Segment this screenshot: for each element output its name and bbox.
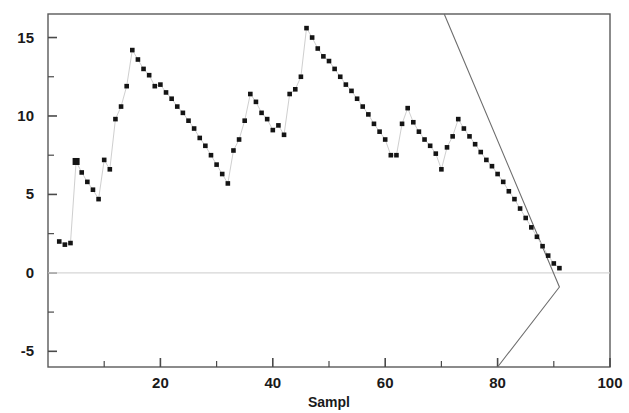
data-point (248, 92, 253, 97)
data-point (338, 74, 343, 79)
data-point (287, 92, 292, 97)
data-point (91, 187, 96, 192)
data-point (108, 167, 113, 172)
data-point (119, 104, 124, 109)
data-point (422, 137, 427, 142)
data-point (467, 134, 472, 139)
data-point (490, 164, 495, 169)
data-point (552, 261, 557, 266)
data-point (529, 225, 534, 230)
data-point (535, 234, 540, 239)
data-point (220, 172, 225, 177)
data-point (96, 197, 101, 202)
data-point (271, 128, 276, 133)
data-point (478, 150, 483, 155)
data-point (315, 46, 320, 51)
data-point (164, 90, 169, 95)
plot-frame (48, 14, 610, 367)
axis-ticks (48, 38, 610, 367)
data-point (518, 206, 523, 211)
series-connector-line (59, 28, 559, 268)
data-point (321, 54, 326, 59)
x-tick-label: 20 (130, 374, 190, 391)
data-point (124, 84, 129, 89)
data-point (473, 142, 478, 147)
data-point (501, 180, 506, 185)
data-point (405, 106, 410, 111)
data-point (557, 266, 562, 271)
data-point (507, 189, 512, 194)
data-point (130, 48, 135, 53)
data-point (355, 96, 360, 101)
data-point (360, 104, 365, 109)
data-point (327, 59, 332, 64)
data-point (226, 181, 231, 186)
data-point (389, 153, 394, 158)
data-point (299, 74, 304, 79)
data-point (377, 129, 382, 134)
data-point (445, 145, 450, 150)
data-point (332, 67, 337, 72)
data-point (85, 180, 90, 185)
x-tick-label: 80 (468, 374, 528, 391)
data-point (484, 158, 489, 163)
data-point (394, 153, 399, 158)
data-point (158, 82, 163, 87)
x-axis-title: Sampl (229, 394, 429, 410)
control-limit-line (444, 14, 559, 367)
data-point (141, 67, 146, 72)
data-point (439, 167, 444, 172)
y-tick-label: 10 (0, 107, 34, 124)
data-point (175, 104, 180, 109)
data-point (242, 118, 247, 123)
data-point (344, 82, 349, 87)
x-tick-label: 60 (355, 374, 415, 391)
data-point (372, 122, 377, 127)
data-point (102, 158, 107, 163)
data-point (304, 26, 309, 31)
y-tick-label: -5 (0, 342, 34, 359)
data-point (79, 170, 84, 175)
data-point (214, 162, 219, 167)
data-point (237, 137, 242, 142)
plot-area (0, 0, 629, 413)
data-point (169, 96, 174, 101)
series-data-points (57, 26, 562, 271)
data-point (203, 143, 208, 148)
data-point (73, 158, 80, 165)
data-point (383, 137, 388, 142)
data-point (282, 133, 287, 138)
data-point (192, 126, 197, 131)
data-point (417, 129, 422, 134)
data-point (181, 111, 186, 116)
data-point (512, 197, 517, 202)
data-point (456, 117, 461, 122)
data-point (57, 239, 62, 244)
data-point (546, 253, 551, 258)
data-point (265, 117, 270, 122)
data-point (209, 153, 214, 158)
data-point (462, 126, 467, 131)
chart-figure: -5051015 20406080100 Sampl (0, 0, 629, 413)
data-point (147, 73, 152, 78)
data-point (152, 84, 157, 89)
data-point (113, 117, 118, 122)
data-point (433, 151, 438, 156)
y-tick-label: 5 (0, 185, 34, 202)
data-point (231, 148, 236, 153)
data-point (450, 134, 455, 139)
data-point (197, 136, 202, 141)
data-point (400, 122, 405, 127)
x-tick-label: 40 (243, 374, 303, 391)
x-tick-label: 100 (580, 374, 629, 391)
data-point (428, 143, 433, 148)
data-point (68, 241, 73, 246)
data-point (136, 57, 141, 62)
data-point (495, 172, 500, 177)
data-point (254, 100, 259, 105)
data-point (310, 35, 315, 40)
data-point (366, 112, 371, 117)
data-point (293, 87, 298, 92)
y-tick-label: 0 (0, 264, 34, 281)
data-point (276, 123, 281, 128)
